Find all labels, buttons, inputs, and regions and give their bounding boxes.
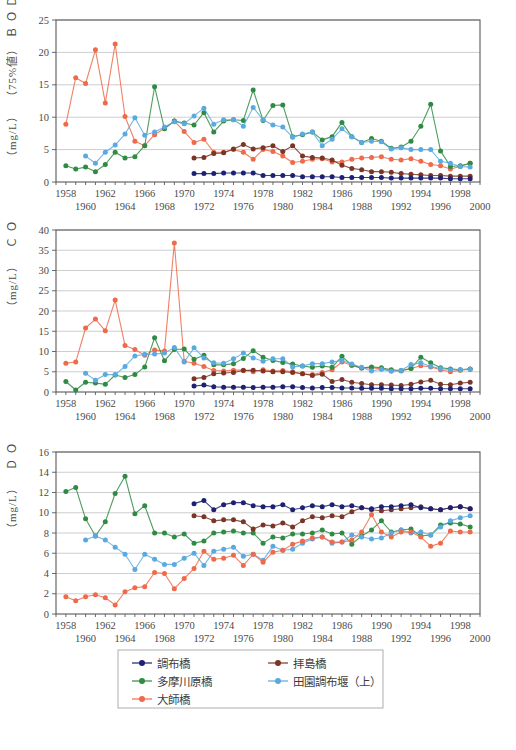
data-point xyxy=(389,157,394,162)
data-point xyxy=(103,372,108,377)
data-point xyxy=(330,540,335,545)
data-point xyxy=(418,535,423,540)
data-point xyxy=(201,383,206,388)
data-point xyxy=(300,532,305,537)
data-point xyxy=(349,503,354,508)
series-調布橋 xyxy=(192,170,473,181)
series-多摩川原橋 xyxy=(63,474,472,547)
data-point xyxy=(113,602,118,607)
data-point xyxy=(339,377,344,382)
x-tick-label: 1968 xyxy=(154,201,175,212)
data-point xyxy=(113,372,118,377)
data-point xyxy=(241,142,246,147)
y-tick-label: 5 xyxy=(44,144,49,155)
data-point xyxy=(241,519,246,524)
data-point xyxy=(349,538,354,543)
data-point xyxy=(369,506,374,511)
data-point xyxy=(320,385,325,390)
data-point xyxy=(310,174,315,179)
x-tick-label: 1962 xyxy=(95,620,116,631)
data-point xyxy=(408,147,413,152)
data-point xyxy=(270,369,275,374)
x-tick-label: 1986 xyxy=(331,188,352,199)
data-point xyxy=(211,171,216,176)
x-tick-label: 1996 xyxy=(430,633,451,644)
data-point xyxy=(211,384,216,389)
plot-do: 0246810121416195819621966197019741978198… xyxy=(0,440,516,644)
y-tick-label: 4 xyxy=(44,568,50,579)
data-point xyxy=(132,372,137,377)
x-tick-label: 1994 xyxy=(410,398,432,409)
svg-text:（mg/L）: （mg/L） xyxy=(6,482,18,534)
data-point xyxy=(359,167,364,172)
data-point xyxy=(468,529,473,534)
data-point xyxy=(162,571,167,576)
data-point xyxy=(379,386,384,391)
data-point xyxy=(201,106,206,111)
data-point xyxy=(359,140,364,145)
data-point xyxy=(280,548,285,553)
data-point xyxy=(418,176,423,181)
data-point xyxy=(162,124,167,129)
data-point xyxy=(241,170,246,175)
y-tick-label: 35 xyxy=(39,245,50,256)
data-point xyxy=(468,513,473,518)
data-point xyxy=(93,169,98,174)
data-point xyxy=(399,529,404,534)
data-point xyxy=(300,385,305,390)
x-tick-label: 1984 xyxy=(312,411,334,422)
x-tick-label: 1974 xyxy=(213,398,235,409)
y-tick-label: 15 xyxy=(39,326,50,337)
data-point xyxy=(261,368,266,373)
y-tick-label: 5 xyxy=(44,366,49,377)
legend-marker xyxy=(275,678,281,684)
data-point xyxy=(359,535,364,540)
x-tick-label: 1966 xyxy=(134,188,155,199)
data-point xyxy=(201,137,206,142)
x-tick-label: 1988 xyxy=(351,633,372,644)
data-point xyxy=(330,513,335,518)
data-point xyxy=(251,385,256,390)
data-point xyxy=(448,367,453,372)
data-point xyxy=(300,154,305,159)
x-tick-label: 1980 xyxy=(272,411,293,422)
data-point xyxy=(152,84,157,89)
data-point xyxy=(152,570,157,575)
data-point xyxy=(290,542,295,547)
data-point xyxy=(369,368,374,373)
x-tick-label: 1960 xyxy=(75,633,96,644)
legend-marker xyxy=(139,696,145,702)
x-tick-label: 1970 xyxy=(174,188,195,199)
data-point xyxy=(408,529,413,534)
data-point xyxy=(142,364,147,369)
x-tick-label: 1978 xyxy=(253,620,274,631)
data-point xyxy=(113,143,118,148)
data-point xyxy=(211,549,216,554)
y-tick-label: 25 xyxy=(39,15,50,26)
data-point xyxy=(162,351,167,356)
data-point xyxy=(261,145,266,150)
data-point xyxy=(379,154,384,159)
data-point xyxy=(103,519,108,524)
data-point xyxy=(63,594,68,599)
data-point xyxy=(310,361,315,366)
data-point xyxy=(152,557,157,562)
data-point xyxy=(310,385,315,390)
y-tick-label: 20 xyxy=(39,306,50,317)
x-tick-label: 1978 xyxy=(253,398,274,409)
x-tick-label: 1988 xyxy=(351,201,372,212)
data-point xyxy=(418,505,423,510)
data-point xyxy=(241,356,246,361)
x-tick-label: 1968 xyxy=(154,633,175,644)
data-point xyxy=(73,360,78,365)
data-point xyxy=(290,173,295,178)
data-point xyxy=(270,122,275,127)
data-point xyxy=(330,385,335,390)
data-point xyxy=(300,539,305,544)
data-point xyxy=(172,586,177,591)
data-point xyxy=(359,175,364,180)
x-tick-label: 1980 xyxy=(272,201,293,212)
data-point xyxy=(349,362,354,367)
data-point xyxy=(399,386,404,391)
y-axis-label: Ｄ Ｏ（mg/L） xyxy=(6,442,18,534)
